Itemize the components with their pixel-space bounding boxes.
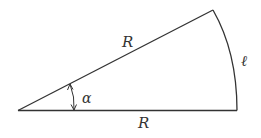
upper-radius-label: R xyxy=(121,33,133,51)
arc-length-label: ℓ xyxy=(241,52,247,70)
sector-figure: R R ℓ α xyxy=(0,0,261,138)
sector-diagram: R R ℓ α xyxy=(0,0,261,138)
lower-radius-label: R xyxy=(137,114,149,132)
arc xyxy=(213,10,237,111)
angle-label: α xyxy=(82,90,92,106)
upper-radius-line xyxy=(18,10,213,111)
